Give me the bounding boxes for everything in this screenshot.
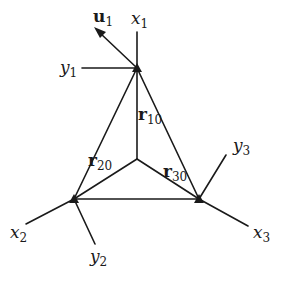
axis-x3 bbox=[199, 199, 248, 226]
label-u1: u1 bbox=[93, 8, 113, 28]
vector-u1 bbox=[100, 33, 137, 68]
label-y3: y3 bbox=[233, 137, 250, 157]
label-x1: x1 bbox=[131, 10, 148, 30]
label-x3: x3 bbox=[253, 224, 270, 244]
label-r30: r30 bbox=[163, 163, 187, 183]
label-r10: r10 bbox=[138, 106, 162, 126]
label-r20: r20 bbox=[88, 152, 112, 172]
label-x2: x2 bbox=[10, 224, 27, 244]
label-y1: y1 bbox=[60, 59, 77, 79]
axis-y3 bbox=[199, 155, 226, 199]
axis-x2 bbox=[26, 199, 74, 224]
axis-y2 bbox=[74, 199, 95, 244]
label-y2: y2 bbox=[90, 248, 107, 268]
